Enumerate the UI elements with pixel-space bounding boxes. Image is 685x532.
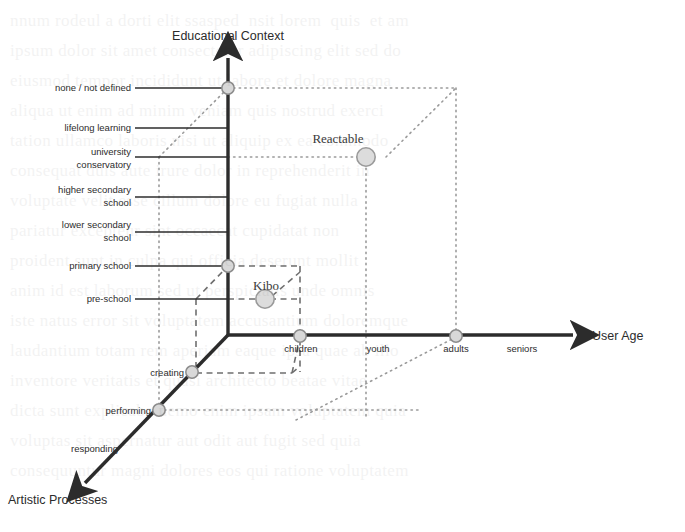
y-tick-label-higher-secondary-line2: school bbox=[104, 197, 131, 208]
y-tick-label-primary-school: primary school bbox=[69, 260, 131, 271]
x-axis-title: User Age bbox=[592, 329, 643, 343]
x-tick-label-adults: adults bbox=[443, 343, 469, 354]
x-tick-label-seniors: seniors bbox=[507, 343, 538, 354]
reactable-guide-depth-back bbox=[159, 88, 228, 157]
z-axis-title: Artistic Processes bbox=[8, 493, 107, 507]
y-axis-tick-labels: none / not defined lifelong learning uni… bbox=[55, 82, 131, 304]
z-tick-label-creating: creating bbox=[150, 367, 184, 378]
axis-marker-none-not-defined bbox=[222, 82, 234, 94]
y-tick-label-lifelong-learning: lifelong learning bbox=[64, 122, 131, 133]
y-tick-label-university-line2: conservatory bbox=[77, 159, 132, 170]
axis-marker-children bbox=[294, 330, 306, 342]
axis-marker-creating bbox=[186, 366, 198, 378]
axis-marker-performing bbox=[153, 404, 165, 416]
x-axis-tick-labels: children youth adults seniors bbox=[284, 343, 537, 354]
x-tick-label-youth: youth bbox=[366, 343, 389, 354]
data-point-label-reactable: Reactable bbox=[312, 131, 363, 146]
y-axis-tick-lines bbox=[135, 88, 228, 299]
reactable-projection-guides bbox=[159, 88, 456, 420]
figure-root: nnum rodeul a dorti elit ssasped nsit lo… bbox=[0, 0, 685, 532]
y-tick-label-pre-school: pre-school bbox=[87, 293, 131, 304]
axes-lines bbox=[85, 58, 573, 483]
axis-marker-adults bbox=[450, 330, 462, 342]
y-tick-label-lower-secondary-line1: lower secondary bbox=[62, 219, 131, 230]
three-dimensional-scatter-diagram: Reactable Kibo Educational Context User … bbox=[0, 0, 685, 532]
y-tick-label-none-not-defined: none / not defined bbox=[55, 82, 131, 93]
z-tick-label-responding: responding bbox=[71, 443, 118, 454]
x-tick-label-children: children bbox=[284, 343, 317, 354]
kibo-projection-guides bbox=[196, 266, 300, 373]
data-point-reactable[interactable] bbox=[357, 148, 375, 166]
data-point-label-kibo: Kibo bbox=[253, 278, 279, 293]
y-tick-label-lower-secondary-line2: school bbox=[104, 232, 131, 243]
axis-marker-primary-school bbox=[222, 260, 234, 272]
reactable-guide-depth-top bbox=[386, 88, 456, 157]
y-axis-title: Educational Context bbox=[172, 29, 284, 43]
y-tick-label-higher-secondary-line1: higher secondary bbox=[58, 184, 131, 195]
z-tick-label-performing: performing bbox=[106, 405, 151, 416]
y-tick-label-university-line1: university bbox=[91, 146, 131, 157]
